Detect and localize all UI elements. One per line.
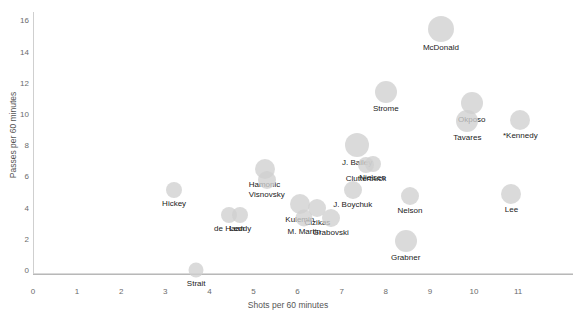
y-axis-label: Passes per 60 minutes [8, 65, 18, 205]
data-point-label: *Kennedy [503, 131, 538, 140]
x-tick-label: 7 [339, 287, 343, 296]
y-tick-label: 14 [3, 47, 29, 56]
x-tick-label: 11 [514, 287, 522, 296]
x-axis-label: Shots per 60 minutes [0, 300, 576, 310]
data-point-bubble[interactable] [322, 209, 340, 227]
x-tick-label: 4 [207, 287, 211, 296]
data-point-bubble[interactable] [166, 182, 182, 198]
data-point-bubble[interactable] [375, 81, 397, 103]
data-point-bubble[interactable] [344, 181, 362, 199]
data-point-bubble[interactable] [456, 110, 478, 132]
x-tick-label: 5 [251, 287, 255, 296]
data-point-label: Strome [373, 104, 399, 113]
data-point-label: Lee [505, 205, 518, 214]
x-tick-label: 2 [119, 287, 123, 296]
x-tick-label: 6 [295, 287, 299, 296]
x-tick-label: 0 [31, 287, 35, 296]
y-tick-label: 0 [3, 266, 29, 275]
y-tick-label: 2 [3, 234, 29, 243]
data-point-bubble[interactable] [189, 263, 204, 278]
data-point-bubble[interactable] [296, 209, 313, 226]
x-tick-label: 8 [384, 287, 388, 296]
x-tick-label: 3 [163, 287, 167, 296]
data-point-bubble[interactable] [510, 110, 530, 130]
data-point-bubble[interactable] [428, 16, 454, 42]
data-point-label: Strait [187, 279, 206, 288]
data-point-label: J. Boychuk [333, 200, 372, 209]
data-point-label: Nelson [398, 206, 423, 215]
data-point-bubble[interactable] [345, 133, 369, 157]
data-point-bubble[interactable] [358, 157, 374, 173]
x-tick-label: 10 [470, 287, 479, 296]
x-tick-label: 9 [428, 287, 432, 296]
data-point-label: Grabner [391, 253, 420, 262]
data-point-bubble[interactable] [501, 184, 521, 204]
x-tick-label: 1 [75, 287, 79, 296]
y-axis-line [33, 12, 34, 274]
data-point-label: Grabovski [313, 228, 349, 237]
scatter-chart: 0246810121416 01234567891011 McDonaldStr… [0, 0, 576, 315]
x-axis-line [33, 274, 573, 275]
data-point-label: Hickey [162, 199, 186, 208]
data-point-label: McDonald [423, 43, 459, 52]
data-point-label: Visnovsky [249, 190, 285, 199]
data-point-bubble[interactable] [258, 171, 276, 189]
data-point-bubble[interactable] [232, 207, 248, 223]
data-point-label: Leddy [229, 224, 251, 233]
data-point-label: Tavares [453, 133, 481, 142]
y-tick-label: 16 [3, 16, 29, 25]
data-point-bubble[interactable] [401, 187, 419, 205]
data-point-bubble[interactable] [395, 230, 417, 252]
